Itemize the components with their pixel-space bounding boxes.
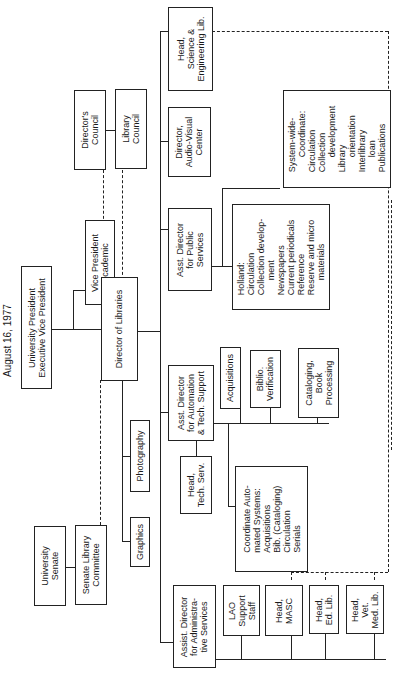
connector xyxy=(215,659,386,660)
connector xyxy=(222,188,280,189)
connector xyxy=(291,636,292,659)
connector xyxy=(270,408,271,423)
box-university-senate: University Senate xyxy=(34,526,66,606)
box-senate-library-committee: Senate Library Committee xyxy=(75,525,107,605)
connector xyxy=(212,266,234,267)
connector xyxy=(241,636,242,659)
box-cataloging: Cataloging, Book Processing xyxy=(298,348,339,418)
box-photography: Photography xyxy=(130,420,150,492)
box-lao-support: LAO Support Staff xyxy=(223,585,260,636)
box-head-science-engineering: Head, Science & Engineering Lib. xyxy=(168,7,213,91)
connector xyxy=(65,567,75,568)
connector xyxy=(160,229,168,230)
connector xyxy=(122,541,130,542)
chart-date-title: August 16, 1977 xyxy=(2,296,13,386)
box-system-wide-coordinate: System-wide- Coordinate: Circulation Col… xyxy=(283,90,391,188)
dashed-connector xyxy=(122,170,123,280)
box-head-vet-med: Head, Vet. Med. Lib. xyxy=(346,585,384,634)
box-asst-director-public-services: Asst. Director for Public Services xyxy=(168,208,212,291)
connector xyxy=(160,141,168,142)
box-holland: Holland: Circulation Collection develop-… xyxy=(232,204,330,310)
box-directors-council: Director's Council xyxy=(74,90,106,170)
main-trunk xyxy=(160,31,161,642)
dashed-connector xyxy=(325,572,326,580)
box-director-audio-visual: Director, Audio-Visual Center xyxy=(168,107,211,177)
connector xyxy=(73,290,74,330)
connector xyxy=(196,441,197,456)
box-biblio-verification: Biblio. Verification xyxy=(250,350,281,408)
box-asst-director-admin: Assist. Director for Administra- tive Se… xyxy=(173,585,216,668)
dashed-connector xyxy=(291,572,292,580)
connector xyxy=(317,418,318,423)
box-coordinate-automated: Coordinate Auto- mated Systems: Acquisit… xyxy=(235,466,308,572)
connector xyxy=(160,412,168,413)
box-head-ed-lib: Head, Ed. Lib. xyxy=(309,585,339,634)
connector xyxy=(228,423,229,506)
box-graphics: Graphics xyxy=(130,517,150,567)
connector xyxy=(240,408,241,423)
connector xyxy=(122,376,123,541)
connector xyxy=(228,506,235,507)
connector xyxy=(214,423,329,424)
dashed-connector xyxy=(374,572,375,580)
connector xyxy=(51,329,108,330)
connector xyxy=(105,130,115,131)
box-asst-director-automation: Asst. Director for Automation & Tech. Su… xyxy=(168,365,214,441)
box-acquisitions: Acquisitions xyxy=(220,347,241,409)
box-director-of-libraries: Director of Libraries xyxy=(101,277,138,381)
connector xyxy=(222,188,223,266)
box-library-council: Library Council xyxy=(115,89,147,169)
dashed-connector xyxy=(100,380,101,525)
dashed-connector xyxy=(212,31,388,32)
connector xyxy=(122,456,130,457)
connector xyxy=(160,31,168,32)
connector xyxy=(325,634,326,659)
dashed-connector xyxy=(391,200,392,450)
box-head-tech-serv: Head, Tech. Serv. xyxy=(180,456,212,514)
connector xyxy=(160,642,173,643)
box-head-masc: Head, MASC xyxy=(265,585,303,636)
box-university-president: University President Executive Vice Pres… xyxy=(21,266,52,389)
connector xyxy=(138,331,160,332)
connector xyxy=(374,634,375,659)
